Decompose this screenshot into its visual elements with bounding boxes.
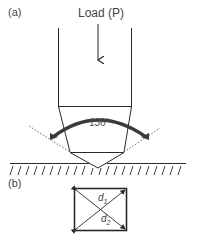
indenter-shaft [58,28,132,107]
d2-subscript: 2 [107,219,111,226]
diagonal-d2-label: d2 [101,213,110,226]
face-angle-lines [29,126,160,152]
angle-label: 136° [89,117,110,128]
panel-a-label: (a) [8,6,21,18]
load-label: Load (P) [78,6,124,20]
surface-hatching [10,166,181,175]
d1-subscript: 1 [104,198,108,205]
diagonal-d1-label: d1 [98,192,107,205]
panel-b-label: (b) [8,177,21,189]
indenter-tip [59,107,132,169]
